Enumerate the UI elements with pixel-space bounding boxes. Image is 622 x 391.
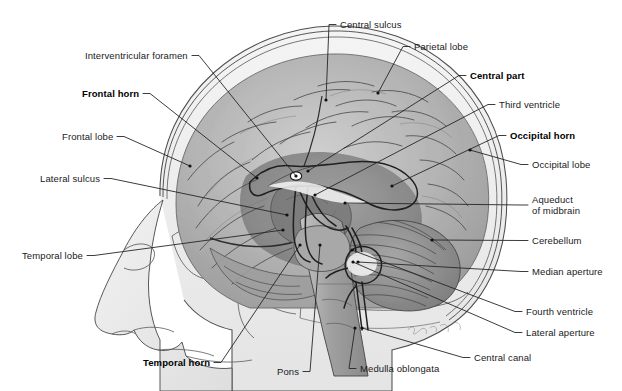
leader-cerebellum: [432, 240, 528, 241]
leader-dot-occipital-horn: [390, 184, 393, 187]
leader-dot-temporal-lobe: [281, 228, 284, 231]
label-aqueduct-of-midbrain: Aqueduct of midbrain: [532, 194, 580, 216]
label-occipital-horn: Occipital horn: [510, 130, 575, 141]
leader-dot-frontal-horn: [255, 176, 258, 179]
leader-dot-lateral-aperture: [351, 260, 354, 263]
leader-dot-parietal-lobe: [376, 91, 379, 94]
leader-dot-median-aperture: [356, 260, 359, 263]
label-cerebellum: Cerebellum: [532, 235, 582, 246]
leader-dot-central-part: [306, 169, 309, 172]
label-temporal-horn: Temporal horn: [143, 357, 210, 368]
label-frontal-horn: Frontal horn: [82, 88, 139, 99]
leader-dot-aqueduct-of-midbrain: [343, 201, 346, 204]
leader-dot-third-ventricle: [313, 193, 316, 196]
label-medulla-oblongata: Medulla oblongata: [360, 363, 439, 374]
leader-dot-medulla-oblongata: [353, 326, 356, 329]
label-third-ventricle: Third ventricle: [499, 99, 560, 110]
label-occipital-lobe: Occipital lobe: [532, 159, 590, 170]
leader-dot-temporal-horn: [298, 243, 301, 246]
leader-dot-fourth-ventricle: [350, 248, 353, 251]
label-frontal-lobe: Frontal lobe: [62, 131, 113, 142]
label-median-aperture: Median aperture: [532, 266, 603, 277]
leader-dot-frontal-lobe: [188, 164, 191, 167]
label-temporal-lobe: Temporal lobe: [22, 250, 83, 261]
leader-dot-central-canal: [360, 326, 363, 329]
leader-dot-lateral-sulcus: [285, 213, 288, 216]
label-parietal-lobe: Parietal lobe: [414, 41, 468, 52]
leader-dot-pons: [318, 243, 321, 246]
leader-dot-cerebellum: [430, 238, 433, 241]
label-central-sulcus: Central sulcus: [340, 19, 402, 30]
label-lateral-sulcus: Lateral sulcus: [40, 173, 100, 184]
label-pons: Pons: [277, 366, 299, 377]
label-central-part: Central part: [470, 70, 525, 81]
label-interventricular-foramen: Interventricular foramen: [85, 50, 188, 61]
label-lateral-aperture: Lateral aperture: [526, 327, 595, 338]
leader-dot-interventricular-foramen: [294, 174, 297, 177]
label-central-canal: Central canal: [474, 352, 531, 363]
leader-dot-occipital-lobe: [468, 148, 471, 151]
leader-dot-central-sulcus: [324, 98, 327, 101]
anatomical-figure: Central sulcusParietal lobeCentral partT…: [0, 0, 622, 391]
label-fourth-ventricle: Fourth ventricle: [526, 306, 593, 317]
